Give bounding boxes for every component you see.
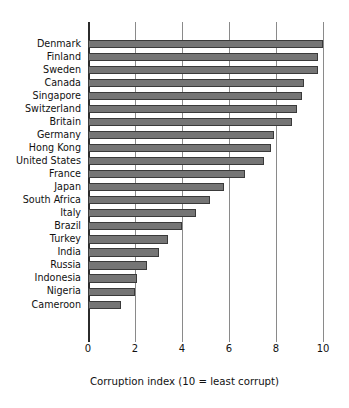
bar xyxy=(88,53,318,61)
bar xyxy=(88,209,196,217)
bar-row xyxy=(88,64,323,77)
bar-row xyxy=(88,142,323,155)
bar xyxy=(88,170,245,178)
bar xyxy=(88,79,304,87)
category-label: Denmark xyxy=(37,37,81,50)
category-label: Sweden xyxy=(43,63,81,76)
bar-row xyxy=(88,208,323,221)
category-label: France xyxy=(49,167,81,180)
bar-row xyxy=(88,299,323,312)
bar xyxy=(88,288,135,296)
x-tick-label: 4 xyxy=(179,342,185,356)
bar xyxy=(88,261,147,269)
category-label: Italy xyxy=(60,206,81,219)
category-label: Britain xyxy=(49,115,81,128)
category-label: Canada xyxy=(44,76,81,89)
bar-row xyxy=(88,260,323,273)
bar-row xyxy=(88,90,323,103)
x-tick-label: 0 xyxy=(85,342,91,356)
bar xyxy=(88,105,297,113)
category-label: Indonesia xyxy=(35,271,81,284)
x-axis-title-text: Corruption index (10 = least corrupt) xyxy=(90,376,279,387)
bar xyxy=(88,144,271,152)
bar-row xyxy=(88,77,323,90)
bar-row xyxy=(88,195,323,208)
bar-row xyxy=(88,273,323,286)
category-label: Switzerland xyxy=(25,102,81,115)
category-label: Germany xyxy=(37,128,81,141)
category-label: South Africa xyxy=(23,193,81,206)
bar xyxy=(88,301,121,309)
x-tick-label: 10 xyxy=(317,342,330,356)
gridline-10 xyxy=(323,22,324,342)
x-tick-label: 2 xyxy=(132,342,138,356)
bar xyxy=(88,196,210,204)
x-axis-title: Corruption index (10 = least corrupt) xyxy=(0,376,349,387)
bar xyxy=(88,66,318,74)
category-label: Nigeria xyxy=(47,284,81,297)
x-tick-label: 6 xyxy=(226,342,232,356)
category-label: Russia xyxy=(50,258,81,271)
bar-row xyxy=(88,182,323,195)
bar-row xyxy=(88,247,323,260)
category-label: Finland xyxy=(47,50,81,63)
category-label: Turkey xyxy=(50,232,81,245)
bar xyxy=(88,157,264,165)
bar-row xyxy=(88,221,323,234)
category-label: Japan xyxy=(54,180,81,193)
bar xyxy=(88,183,224,191)
bar-row xyxy=(88,103,323,116)
category-axis-labels: DenmarkFinlandSwedenCanadaSingaporeSwitz… xyxy=(0,38,85,325)
bar xyxy=(88,92,302,100)
bar xyxy=(88,274,137,282)
bar-row xyxy=(88,116,323,129)
bar-row xyxy=(88,38,323,51)
x-axis-tick-labels: 0246810 xyxy=(88,342,323,358)
category-label: Hong Kong xyxy=(29,141,81,154)
bar xyxy=(88,118,292,126)
corruption-index-bar-chart: DenmarkFinlandSwedenCanadaSingaporeSwitz… xyxy=(0,0,349,408)
category-label: India xyxy=(57,245,81,258)
bar xyxy=(88,222,182,230)
bar-row xyxy=(88,169,323,182)
bar-row xyxy=(88,51,323,64)
bar xyxy=(88,40,323,48)
category-label: Brazil xyxy=(54,219,81,232)
x-tick-label: 8 xyxy=(273,342,279,356)
bar-row xyxy=(88,234,323,247)
bar-row xyxy=(88,286,323,299)
bar-rows xyxy=(88,38,323,325)
category-label: United States xyxy=(16,154,81,167)
bar xyxy=(88,248,159,256)
bar xyxy=(88,131,274,139)
bar-row xyxy=(88,155,323,168)
category-label: Singapore xyxy=(33,89,81,102)
bar-row xyxy=(88,129,323,142)
category-label: Cameroon xyxy=(32,298,81,311)
bar xyxy=(88,235,168,243)
plot-area xyxy=(88,22,323,342)
